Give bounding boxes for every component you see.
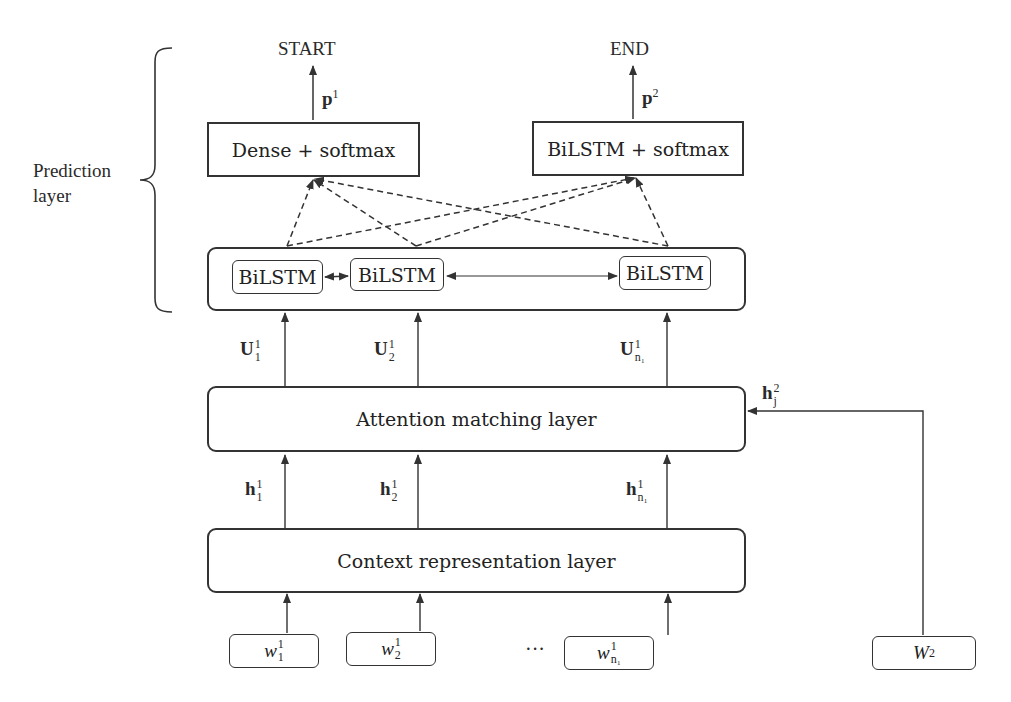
h1-label: h11 <box>245 478 263 504</box>
W2-input: W2 <box>872 636 976 670</box>
bilstm-cell-1-label: BiLSTM <box>239 266 317 288</box>
bilstm-cell-2-label: BiLSTM <box>358 264 436 286</box>
prediction-brace <box>140 48 172 312</box>
h2j-label: h2j <box>762 382 780 408</box>
dashed-1-to-bilstm-softmax <box>287 178 634 246</box>
U2-base: U <box>374 338 388 359</box>
wn-base: w <box>597 642 610 664</box>
context-representation-layer: Context representation layer <box>207 528 746 593</box>
hn-label: h1n₁ <box>626 478 648 504</box>
p2-label: p2 <box>642 86 659 109</box>
dashed-3-to-bilstm-softmax <box>636 178 668 246</box>
wn-sub: n₁ <box>611 653 621 666</box>
h2-label: h12 <box>380 478 398 504</box>
dashed-2-to-dense <box>314 180 416 246</box>
p1-sup: 1 <box>333 87 339 101</box>
p1-base: p <box>322 88 333 109</box>
bilstm-cell-3-label: BiLSTM <box>626 262 704 284</box>
end-label: END <box>610 38 649 60</box>
prediction-layer-label-line2: layer <box>33 183 111 208</box>
U2-sub: 2 <box>389 351 395 364</box>
W2-base: W <box>913 642 929 664</box>
prediction-layer-label-line1: Prediction <box>33 158 111 183</box>
U2-label: U12 <box>374 338 395 364</box>
context-representation-label: Context representation layer <box>337 550 615 572</box>
hn-base: h <box>626 478 637 499</box>
Un-base: U <box>620 338 634 359</box>
prediction-layer-label: Prediction layer <box>33 158 111 208</box>
dense-softmax-box: Dense + softmax <box>207 122 420 177</box>
bilstm-softmax-box: BiLSTM + softmax <box>532 121 744 176</box>
word-input-1: w11 <box>229 634 319 668</box>
dashed-3-to-dense <box>315 179 668 246</box>
W2-sup: 2 <box>929 646 935 661</box>
start-label: START <box>278 38 336 60</box>
dashed-2-to-bilstm-softmax <box>416 178 635 246</box>
word-input-2: w12 <box>346 632 436 666</box>
bilstm-cell-2: BiLSTM <box>350 258 444 291</box>
U1-base: U <box>240 338 254 359</box>
h1-sub: 1 <box>257 491 263 504</box>
dashed-1-to-dense <box>287 180 313 246</box>
word-input-n: w1n₁ <box>564 636 654 670</box>
h2j-sub: j <box>774 395 780 408</box>
diagram-connections <box>0 0 1011 702</box>
h2-sub: 2 <box>392 491 398 504</box>
w1-sub: 1 <box>278 651 284 664</box>
ellipsis: ··· <box>525 638 545 661</box>
U1-label: U11 <box>240 338 261 364</box>
h2-base: h <box>380 478 391 499</box>
w2-base: w <box>381 638 394 660</box>
w1-base: w <box>264 640 277 662</box>
Un-label: U1n₁ <box>620 338 645 364</box>
p2-sup: 2 <box>653 86 659 100</box>
arrow-W2-to-attention <box>748 411 923 635</box>
attention-matching-label: Attention matching layer <box>356 408 596 430</box>
bilstm-softmax-label: BiLSTM + softmax <box>547 138 729 160</box>
dense-softmax-label: Dense + softmax <box>232 139 396 161</box>
p2-base: p <box>642 87 653 108</box>
bilstm-cell-3: BiLSTM <box>619 256 711 290</box>
Un-sub: n₁ <box>635 351 645 364</box>
h2j-base: h <box>762 382 773 403</box>
p1-label: p1 <box>322 87 339 110</box>
hn-sub: n₁ <box>638 491 648 504</box>
h1-base: h <box>245 478 256 499</box>
attention-matching-layer: Attention matching layer <box>207 386 746 452</box>
U1-sub: 1 <box>255 351 261 364</box>
bilstm-cell-1: BiLSTM <box>232 260 323 294</box>
w2-sub: 2 <box>395 649 401 662</box>
